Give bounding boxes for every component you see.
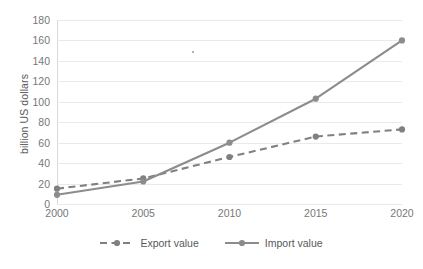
y-axis-tick-label: 40 xyxy=(8,157,50,169)
y-axis-tick-label: 180 xyxy=(8,14,50,26)
data-point xyxy=(313,96,319,102)
y-axis-tick-label: 140 xyxy=(8,55,50,67)
stray-dot-artifact xyxy=(192,51,194,53)
data-point xyxy=(399,126,405,132)
data-point xyxy=(140,178,146,184)
data-point xyxy=(399,37,405,43)
y-axis-tick-label: 160 xyxy=(8,34,50,46)
y-axis-tick-label: 60 xyxy=(8,137,50,149)
x-axis-tick-label: 2020 xyxy=(390,207,413,219)
legend-label: Export value xyxy=(140,237,198,249)
legend-item[interactable]: Export value xyxy=(100,237,198,249)
x-axis-tick-labels: 20002005201020152020 xyxy=(57,207,402,225)
data-point xyxy=(54,192,60,198)
chart-legend: Export valueImport value xyxy=(0,237,423,249)
plot-area xyxy=(57,20,402,204)
y-axis-tick-label: 0 xyxy=(8,198,50,210)
data-point xyxy=(313,133,319,139)
data-point xyxy=(226,154,232,160)
y-axis-tick-label: 120 xyxy=(8,75,50,87)
legend-label: Import value xyxy=(265,237,323,249)
line-chart: billion US dollars 020406080100120140160… xyxy=(0,0,423,269)
series-layer xyxy=(57,20,402,204)
x-axis-tick-label: 2005 xyxy=(132,207,155,219)
y-axis-tick-label: 100 xyxy=(8,96,50,108)
data-point xyxy=(226,140,232,146)
legend-item[interactable]: Import value xyxy=(225,237,323,249)
x-axis-tick-label: 2010 xyxy=(218,207,241,219)
y-axis-tick-label: 20 xyxy=(8,178,50,190)
x-axis-tick-label: 2000 xyxy=(45,207,68,219)
y-axis-tick-label: 80 xyxy=(8,116,50,128)
x-axis-tick-label: 2015 xyxy=(304,207,327,219)
legend-swatch-icon xyxy=(225,238,259,248)
series-line-import-value xyxy=(57,40,402,194)
legend-swatch-icon xyxy=(100,238,134,248)
gridline xyxy=(57,204,402,205)
data-point xyxy=(54,186,60,192)
